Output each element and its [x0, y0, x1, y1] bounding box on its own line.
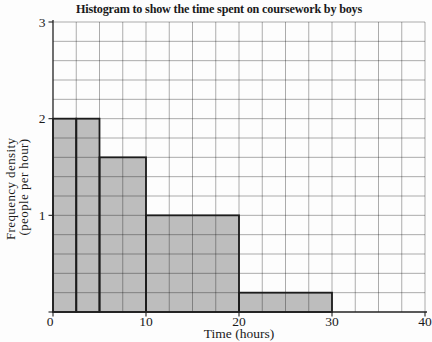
- x-tick-label: 10: [139, 314, 153, 329]
- x-tick-label: 40: [418, 314, 432, 329]
- histogram-figure: 010203040123 Histogram to show the time …: [0, 0, 432, 342]
- x-tick-label: 0: [47, 314, 54, 329]
- y-tick-label: 3: [39, 15, 46, 30]
- plot-layers: 010203040123: [39, 15, 432, 329]
- y-axis-title-line2: (people per hour): [16, 138, 31, 235]
- y-tick-label: 2: [39, 111, 46, 126]
- svg-text:Frequency density (peo: Frequency density (people per hour): [3, 134, 31, 240]
- x-tick-label: 30: [325, 314, 339, 329]
- y-tick-labels: 123: [39, 15, 46, 223]
- y-axis-title: Frequency density (people per hour): [3, 134, 31, 240]
- y-tick-label: 1: [39, 208, 46, 223]
- x-axis-title: Time (hours): [204, 326, 274, 341]
- histogram-chart: 010203040123 Histogram to show the time …: [0, 0, 432, 342]
- chart-title: Histogram to show the time spent on cour…: [76, 2, 363, 16]
